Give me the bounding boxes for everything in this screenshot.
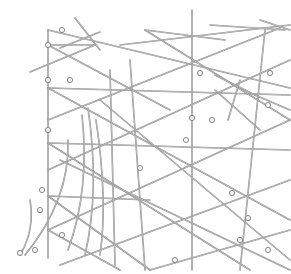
- shell-marker: [183, 137, 188, 142]
- shell-marker: [172, 257, 177, 262]
- stick-chart-illustration: [0, 0, 291, 274]
- shell-marker: [45, 127, 50, 132]
- curved-stick: [68, 115, 84, 250]
- curved-stick: [20, 200, 31, 255]
- stick: [145, 30, 225, 40]
- shell-marker: [189, 115, 194, 120]
- sticks-layer: [30, 10, 290, 270]
- shell-marker: [59, 232, 64, 237]
- stick: [60, 180, 290, 265]
- shell-marker: [209, 117, 214, 122]
- shell-marker: [45, 42, 50, 47]
- shell-marker: [267, 70, 272, 75]
- shell-marker: [265, 247, 270, 252]
- stick: [215, 90, 260, 130]
- stick: [240, 30, 265, 270]
- curved-stick: [68, 115, 84, 250]
- shell-marker: [45, 77, 50, 82]
- shell-marker: [229, 190, 234, 195]
- shell-marker: [59, 27, 64, 32]
- shell-marker: [67, 77, 72, 82]
- stick: [110, 70, 115, 265]
- shell-marker: [39, 187, 44, 192]
- shell-marker: [32, 247, 37, 252]
- curved-stick: [85, 108, 93, 255]
- shell-marker: [245, 215, 250, 220]
- stick: [60, 160, 290, 270]
- shell-marker: [237, 237, 242, 242]
- shell-marker: [137, 165, 142, 170]
- stick: [48, 230, 120, 270]
- stick: [30, 45, 95, 72]
- shell-marker: [17, 250, 22, 255]
- stick: [255, 95, 290, 110]
- shell-marker: [265, 102, 270, 107]
- shell-marker: [197, 70, 202, 75]
- shell-marker: [37, 207, 42, 212]
